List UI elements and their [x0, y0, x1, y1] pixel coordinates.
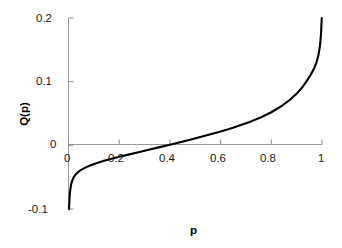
x-tick-label-0.6: 0.6	[210, 152, 226, 164]
x-tick-label-0.8: 0.8	[260, 152, 276, 164]
y-axis-title: Q(p)	[18, 88, 30, 140]
y-tick-label-0: 0	[50, 138, 56, 150]
x-tick-label-0.4: 0.4	[159, 152, 175, 164]
x-axis-ticks	[69, 140, 323, 145]
y-tick-label-0.2: 0.2	[36, 12, 52, 24]
chart-figure: 0.2 0.1 0 -0.1 0 0.2 0.4 0.6 0.8 1 Q(p) …	[0, 0, 342, 248]
chart-plot-area	[0, 0, 342, 248]
data-curve-qp	[69, 18, 322, 209]
x-tick-label-1: 1	[318, 152, 324, 164]
x-axis-title: p	[190, 224, 197, 236]
x-tick-label-0: 0	[64, 152, 70, 164]
y-tick-label--0.1: -0.1	[28, 203, 48, 215]
y-tick-label-0.1: 0.1	[36, 75, 52, 87]
x-tick-label-0.2: 0.2	[108, 152, 124, 164]
